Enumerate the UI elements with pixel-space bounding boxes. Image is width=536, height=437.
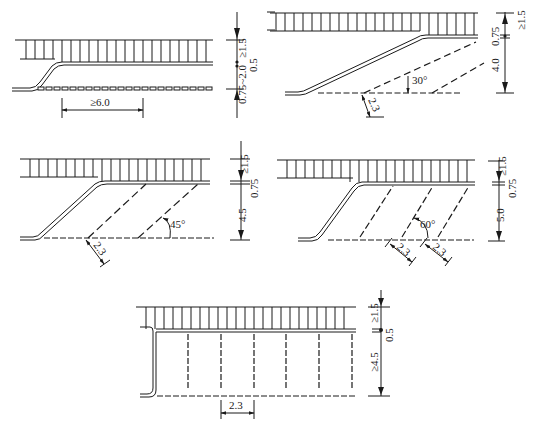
dim-top-label: ≥1.5 [496,156,508,176]
stall-divider [360,186,393,237]
dim-top-label: ≥1.5 [238,154,250,174]
stall-divider [432,63,484,93]
stall-divider [438,186,469,237]
dim-mid-label: 0.5 [247,58,259,72]
stall-divider [138,184,198,238]
sidewalk-hatch [146,307,344,329]
stall-width-label: 2.3 [366,96,383,114]
stall-width-label-1: 2.3 [395,240,414,258]
dim-bottom-label: ≥4.5 [368,352,380,372]
stall-width-label-2: 2.3 [431,240,450,258]
stall-dividers [188,334,352,389]
angle-label: 30° [412,74,427,86]
stall-divider [88,184,146,238]
stall-width-label: 2.3 [91,239,109,258]
dim-bottom-label: 4.0 [489,58,501,72]
parking-layouts-diagram: ≥6.0 ≥1.5 0.5 0.75~2.0 [0,0,536,437]
dim-top-label: ≥1.5 [368,303,380,323]
panel-angle-60: 60° 2.3 2.3 ≥1.5 0.75 5.0 [277,156,518,266]
panel-angle-45: 45° 2.3 ≥1.5 0.75 4.5 [20,141,260,267]
angle-label: 60° [420,218,435,230]
dim-mid-label: 0.5 [383,328,395,342]
panel-parallel: ≥6.0 ≥1.5 0.5 0.75~2.0 [12,12,275,118]
dim-horizontal-label: ≥6.0 [90,96,110,108]
dim-bottom-label: 0.75~2.0 [236,65,248,104]
panel-angle-30: 30° 2.3 ≥1.5 0.75 4.0 [270,10,527,117]
dim-top-label: ≥1.5 [236,38,248,58]
dim-bottom-label: 5.0 [494,208,506,222]
sidewalk-hatch [287,160,467,182]
dim-top-label: ≥1.5 [515,10,527,30]
dim-bottom-label: 4.5 [236,208,248,222]
panel-perpendicular: 2.3 ≥1.5 0.5 ≥4.5 [136,290,395,419]
sidewalk-hatch [276,13,474,35]
stall-marking-line [38,87,212,90]
sidewalk-hatch [30,159,201,181]
dim-mid-label: 0.75 [248,178,260,198]
stall-width-label: 2.3 [229,399,243,411]
dim-mid-label: 0.75 [506,178,518,198]
dim-mid-label: 0.75 [489,26,501,46]
angle-label: 45° [170,218,185,230]
